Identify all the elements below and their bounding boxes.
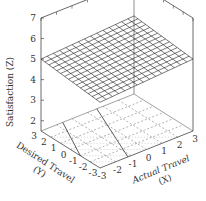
svg-text:7: 7 xyxy=(30,13,36,23)
y-axis-label: Desired Travel (Y) xyxy=(9,140,77,194)
x-axis-label: Actual Travel (X) xyxy=(130,153,195,196)
svg-text:6: 6 xyxy=(30,34,36,44)
surface-plot: 234567-3-2-101233210-1-2-3 Satisfaction … xyxy=(0,0,206,201)
svg-text:-1: -1 xyxy=(129,159,138,169)
svg-text:3: 3 xyxy=(30,95,36,105)
svg-text:4: 4 xyxy=(30,75,36,85)
svg-text:2: 2 xyxy=(30,116,36,126)
svg-text:3: 3 xyxy=(31,131,37,141)
svg-text:2: 2 xyxy=(177,140,183,150)
svg-text:-2: -2 xyxy=(113,165,122,175)
svg-text:5: 5 xyxy=(30,54,36,64)
svg-text:-2: -2 xyxy=(79,162,88,172)
svg-text:3: 3 xyxy=(192,134,198,144)
svg-text:-3: -3 xyxy=(98,171,107,181)
z-axis-label: Satisfaction (Z) xyxy=(5,57,15,127)
svg-text:-3: -3 xyxy=(89,168,98,178)
surface-mesh xyxy=(41,16,193,102)
svg-text:0: 0 xyxy=(61,150,67,160)
svg-text:1: 1 xyxy=(51,143,57,153)
axis-box xyxy=(41,0,193,168)
svg-text:2: 2 xyxy=(41,137,47,147)
svg-text:0: 0 xyxy=(146,153,152,163)
svg-text:1: 1 xyxy=(161,146,167,156)
svg-text:-1: -1 xyxy=(69,156,78,166)
